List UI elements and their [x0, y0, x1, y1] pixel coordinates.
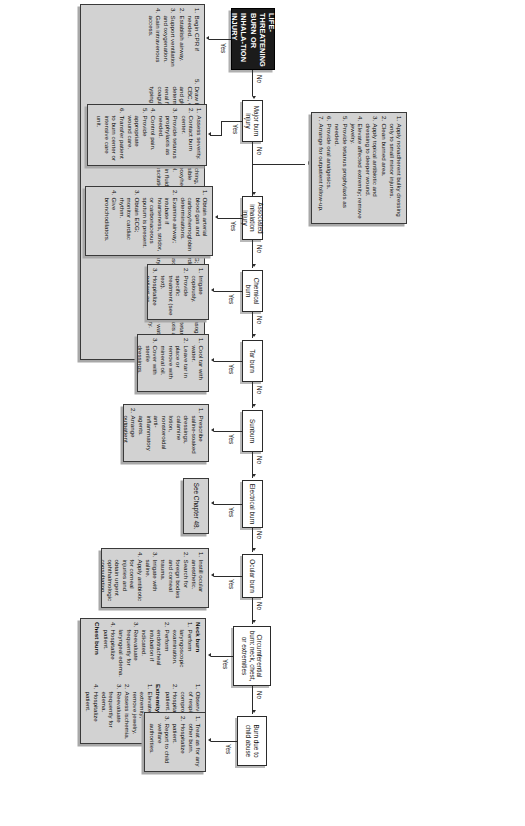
edge-label-ocular-yes: Yes	[228, 578, 235, 590]
list-item: 2.Leave tar in place or remove with mine…	[160, 338, 190, 388]
connector-major-burn-yes	[222, 121, 242, 122]
edge-label-tar-no: No	[256, 385, 263, 395]
list-item: 1.Perform laryngoscopic examination.	[171, 622, 193, 678]
action-box-ocular-yes: 1.Instill ocular anesthetic. 2.Search fo…	[101, 548, 209, 608]
major-burn-yes-list: 1.Assess severity. 2.Contact burn center…	[96, 108, 203, 162]
edge-label-chemical-yes: Yes	[228, 293, 235, 305]
arrow-tar-yes	[211, 358, 214, 362]
list-item: 3.Report to child welfare authorities.	[149, 716, 171, 768]
child-abuse-yes-list: 1.Treat as for any other burn. 2.Hospita…	[149, 716, 202, 768]
list-item: 1.Irrigate copiously.	[190, 268, 205, 316]
list-item: 1.Begin CPR if needed.	[186, 8, 201, 72]
decision-major-burn-injury: Major burn injury	[242, 100, 263, 142]
list-item: 2.Provide specific treatment (see text).	[160, 268, 190, 316]
list-item: 4.Gain intravenous access.	[147, 8, 162, 72]
action-box-electrical-yes: See Chapter 48.	[183, 478, 209, 534]
decision-tar-burn: Tar burn	[242, 340, 263, 382]
edge-label-electrical-no: No	[256, 530, 263, 540]
edge-label-inhalation-no: No	[256, 244, 263, 254]
edge-label-sunburn-no: No	[256, 455, 263, 465]
action-box-chemical-yes: 1.Irrigate copiously. 2.Provide specific…	[147, 264, 209, 320]
list-item: 1.Treat as for any other burn.	[187, 716, 202, 768]
list-item: 5.Provide tetanus prophylaxis as needed.	[334, 116, 349, 220]
rotated-page-wrapper: LIFE-THREATENING BURN OR INHALA-TION INJ…	[0, 0, 525, 826]
list-item: 1.Apply nonadherent bulky dressing only …	[388, 116, 403, 220]
group-heading-neck: Neck burn	[195, 622, 202, 678]
connector-child-abuse-yes	[211, 741, 237, 742]
arrow-chemical-yes	[211, 288, 214, 292]
arrow-child-abuse-yes	[208, 738, 211, 742]
arrow-circumferential-yes	[208, 653, 211, 657]
edge-label-major-burn-no: No	[256, 146, 263, 156]
list-item: 3.Support ventilation and oxygenation.	[163, 8, 178, 72]
connector-title-right	[252, 70, 253, 96]
arrow-electrical-yes	[211, 501, 214, 505]
arrow-major-to-inhalation	[252, 192, 256, 195]
decision-ocular-burn: Ocular burn	[242, 554, 263, 598]
connector-circumferential-yes	[211, 656, 233, 657]
edge-label-tar-yes: Yes	[228, 363, 235, 375]
edge-label-title-yes: Yes	[220, 42, 227, 54]
list-item: 3.Obtain ECG; monitor cardiac rhythm.	[119, 190, 141, 252]
edge-label-circumferential-no: No	[256, 690, 263, 700]
list-item: 4.Give bronchodilators.	[103, 190, 118, 252]
action-box-child-abuse-yes: 1.Treat as for any other burn. 2.Hospita…	[144, 712, 206, 772]
flowchart-title: LIFE-THREATENING BURN OR INHALA-TION INJ…	[231, 8, 275, 70]
list-item: 4.Apply antibiotic for corneal injuries …	[101, 552, 144, 604]
arrow-tar-no	[252, 404, 256, 407]
edge-label-ocular-no: No	[256, 601, 263, 611]
connector-major-burn-no	[252, 142, 253, 164]
ocular-yes-list: 1.Instill ocular anesthetic. 2.Search fo…	[101, 552, 205, 604]
list-item: 2.Search for foreign bodies and corneal …	[160, 552, 190, 604]
list-item: 3.Provide tetanus prophylaxis as needed.	[157, 108, 179, 162]
list-item: 2.Establish airway.	[178, 8, 185, 72]
connector-ocular-yes	[214, 576, 242, 577]
connector-sunburn-yes	[214, 431, 242, 432]
list-item: 1.Instill ocular anesthetic.	[190, 552, 205, 604]
edge-label-sunburn-yes: Yes	[228, 433, 235, 445]
tar-yes-list: 1.Cool tar with water. 2.Leave tar in pl…	[137, 338, 205, 388]
list-item: 3.Reevaluate frequently for edema.	[101, 684, 123, 740]
list-item: 3.Apply topical antibiotic and dressing …	[365, 116, 380, 220]
decision-inhalation-injury: Associated inhalation injury	[242, 196, 263, 240]
list-item: 2.Clean burned area.	[380, 116, 387, 220]
edge-label-title-no: No	[256, 74, 263, 84]
group-neck-burn: Neck burn 1.Perform laryngoscopic examin…	[103, 622, 202, 678]
sunburn-yes-list: 1.Prescribe saline-soaked dressings, cal…	[123, 408, 205, 458]
list-item: 2.Contact burn center.	[180, 108, 195, 162]
edge-label-chemical-no: No	[256, 315, 263, 325]
edge-label-child-abuse-yes: Yes	[225, 743, 232, 755]
connector-major-burn-yes-h	[221, 121, 222, 135]
connector-chemical-yes	[214, 291, 242, 292]
major-burn-no-list: 1.Apply nonadherent bulky dressing only …	[318, 116, 403, 220]
arrow-ocular-yes	[211, 573, 214, 577]
arrow-sunburn-yes	[211, 428, 214, 432]
list-item: 3.Irrigate with saline.	[144, 552, 159, 604]
connector-tar-yes	[214, 361, 242, 362]
decision-chemical-burn: Chemical burn	[242, 270, 263, 312]
list-item: 2.Perform endotracheal intubation if ind…	[141, 622, 171, 678]
arrow-chemical-no	[252, 334, 256, 337]
connector-major-burn-yes-v2	[210, 135, 222, 136]
edge-label-inhalation-yes: Yes	[230, 220, 237, 232]
arrow-ocular-no	[252, 620, 256, 623]
list-item: 6.Transfer patient to burn center or int…	[96, 108, 126, 162]
action-box-major-burn-no: 1.Apply nonadherent bulky dressing only …	[311, 112, 407, 224]
arrow-title-down	[206, 36, 209, 40]
list-item: 3.Reevaluate frequently for laryngeal ed…	[118, 622, 140, 678]
electrical-see-chapter: See Chapter 48.	[192, 483, 200, 530]
list-item: 4.Hospitalize patient.	[85, 684, 100, 740]
connector-title-down	[209, 39, 231, 40]
connector-major-burn-no-v	[253, 164, 305, 165]
connector-electrical-yes	[214, 504, 242, 505]
arrow-sunburn-no	[252, 474, 256, 477]
edge-label-circumferential-yes: Yes	[222, 658, 229, 670]
arrow-electrical-no	[252, 548, 256, 551]
edge-label-electrical-yes: Yes	[228, 506, 235, 518]
connector-inhalation-yes	[218, 218, 242, 219]
group-heading-chest: Chest burn	[93, 622, 100, 678]
neck-burn-list: 1.Perform laryngoscopic examination. 2.P…	[103, 622, 194, 678]
list-item: 4.Hospitalize patient.	[103, 622, 118, 678]
action-box-inhalation-yes: 1.Obtain arterial blood gas and carboxyh…	[85, 186, 213, 256]
arrow-inhalation-no	[252, 264, 256, 267]
